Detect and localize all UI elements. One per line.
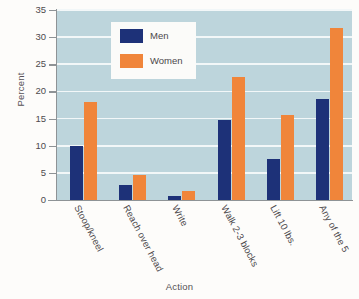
y-axis-tick-label: 10	[22, 140, 46, 151]
x-axis-line	[48, 200, 353, 201]
legend-swatch-women	[120, 54, 143, 68]
bar-women-0	[84, 102, 97, 200]
y-axis-tick-label: 35	[22, 4, 46, 15]
y-axis-tick-label: 25	[22, 58, 46, 69]
y-axis-tick-label: 0	[22, 194, 46, 205]
legend-label-women: Women	[150, 55, 183, 66]
bar-men-0	[70, 146, 83, 200]
y-axis-tick	[49, 91, 57, 92]
bar-women-1	[133, 175, 146, 201]
gridline	[57, 63, 352, 65]
x-category-label: Any of the 5	[318, 203, 352, 254]
bar-men-1	[119, 185, 132, 200]
gridline	[57, 9, 352, 11]
y-axis-tick	[49, 37, 57, 38]
bar-women-4	[281, 115, 294, 200]
x-category-label: Lift 10 lbs.	[269, 203, 300, 247]
gridline	[57, 145, 352, 147]
bar-women-3	[232, 77, 245, 200]
x-axis-title: Action	[0, 281, 359, 292]
x-category-label: Reach over head	[121, 203, 165, 273]
gridline	[57, 118, 352, 120]
gridline	[57, 172, 352, 174]
legend-swatch-men	[120, 29, 143, 43]
y-axis-tick	[49, 119, 57, 120]
y-axis-tick-label: 15	[22, 113, 46, 124]
y-axis-tick-label: 5	[22, 167, 46, 178]
bar-men-4	[267, 159, 280, 200]
bar-men-3	[218, 120, 231, 200]
bar-chart-figure: Percent 05101520253035 Stoop/kneelReach …	[0, 0, 359, 299]
y-axis-tick	[49, 200, 57, 201]
bar-women-5	[330, 28, 343, 200]
y-axis-tick	[49, 146, 57, 147]
y-axis-tick-label: 20	[22, 85, 46, 96]
gridlines	[57, 10, 352, 200]
x-category-label: Write	[170, 203, 190, 228]
y-axis-tick	[49, 10, 57, 11]
x-category-label: Walk 2-3 blocks	[219, 203, 261, 268]
y-axis-tick	[49, 173, 57, 174]
gridline	[57, 36, 352, 38]
plot-area	[57, 10, 352, 200]
bar-men-5	[316, 99, 329, 201]
legend-label-men: Men	[150, 30, 168, 41]
gridline	[57, 91, 352, 93]
y-axis-tick-label: 30	[22, 31, 46, 42]
chart-legend: Men Women	[111, 22, 196, 79]
y-axis-tick	[49, 64, 57, 65]
x-category-label: Stoop/kneel	[72, 203, 106, 253]
